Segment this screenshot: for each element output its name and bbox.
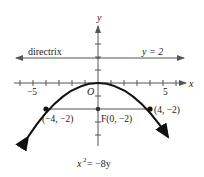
- x-tick-label-neg5: −5: [27, 87, 37, 97]
- focus-point: [96, 107, 101, 112]
- x-tick-label-5: 5: [163, 87, 168, 97]
- directrix-label: directrix: [28, 46, 62, 57]
- parabola-diagram: y x O −5 5 directrix y = 2 (−4, −2) (4, …: [0, 0, 204, 177]
- point-left-label: (−4, −2): [42, 114, 73, 125]
- equation: x 2 = −8y: [76, 156, 111, 169]
- point-right: [147, 106, 152, 111]
- y-axis: [95, 26, 101, 146]
- directrix-equation-label: y = 2: [141, 46, 163, 57]
- x-axis-label: x: [188, 78, 194, 89]
- origin-label: O: [87, 86, 94, 97]
- equation-base: x: [76, 158, 82, 169]
- point-left: [43, 106, 48, 111]
- point-right-label: (4, −2): [154, 105, 180, 116]
- equation-rhs: = −8y: [87, 158, 111, 169]
- focus-label: F(0, −2): [101, 114, 132, 125]
- y-axis-label: y: [96, 12, 102, 23]
